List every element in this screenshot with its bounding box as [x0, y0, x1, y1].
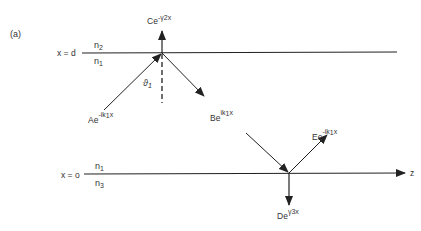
incident-arrow-lower	[246, 133, 288, 172]
z-axis-label: z	[410, 168, 414, 178]
upper-reflection: ϑ1 Ce-γ2x Ae-ik1x Beik1x	[88, 14, 233, 125]
interface-upper: x = d n2 n1	[57, 40, 397, 67]
waveguide-diagram: (a) x = d n2 n1 ϑ1 Ce-γ2x Ae-ik1x Beik1x…	[0, 0, 421, 231]
lower-reflection: Ee-ik1x Deγ3x	[246, 128, 338, 221]
reflected-arrow-B	[162, 53, 204, 96]
medium-n3-below: n3	[95, 178, 104, 189]
wave-label-C: Ce-γ2x	[147, 14, 172, 26]
wave-label-D: Deγ3x	[277, 208, 299, 221]
interface-line-d	[82, 52, 397, 53]
wave-label-B: Beik1x	[210, 109, 233, 123]
wave-label-E: Ee-ik1x	[312, 128, 338, 142]
z-axis-line	[84, 173, 405, 174]
position-label-o: x = o	[61, 170, 80, 180]
interface-lower: x = o z n1 n3	[61, 161, 414, 189]
medium-n1-below: n1	[94, 56, 103, 67]
wave-label-A: Ae-ik1x	[88, 111, 114, 125]
incident-arrow-A	[104, 54, 161, 110]
angle-theta1: ϑ1	[143, 78, 152, 89]
medium-n2-above: n2	[94, 40, 103, 51]
position-label-d: x = d	[57, 48, 76, 58]
medium-n1-above: n1	[95, 161, 104, 172]
panel-label: (a)	[10, 29, 21, 39]
